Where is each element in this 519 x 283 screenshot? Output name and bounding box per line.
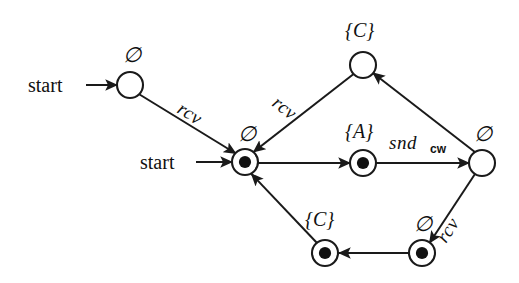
- initial-accepting-center[interactable]: [232, 149, 258, 175]
- edge-label-snd-cw: snd cw: [389, 132, 447, 156]
- state-label-bottom-c: {C}: [305, 208, 334, 230]
- state-label-center: ∅: [238, 122, 258, 146]
- state-label-mid-a: {A}: [345, 120, 373, 142]
- automaton-diagram: start start ∅ {C} ∅ {A} ∅ {C} ∅ rcv rcv …: [0, 0, 519, 283]
- state-top-c[interactable]: [350, 52, 376, 78]
- state-label-top-c: {C}: [345, 19, 374, 41]
- initial-state-upper[interactable]: [117, 72, 143, 98]
- edge-label-snd-subscript: cw: [430, 142, 447, 156]
- start-label-lower: start: [140, 151, 175, 173]
- state-label-bottom-right: ∅: [414, 212, 434, 236]
- state-right[interactable]: [469, 150, 495, 176]
- edge-label-rcv-bottom-right: rcv: [432, 213, 463, 246]
- edge-top-c-to-center: [254, 74, 354, 152]
- state-label-right: ∅: [474, 122, 494, 146]
- state-mid-a[interactable]: [350, 150, 376, 176]
- edge-label-snd: snd: [389, 132, 417, 153]
- start-label-upper: start: [28, 74, 63, 96]
- edge-label-rcv-init-upper: rcv: [174, 98, 207, 129]
- state-bottom-c[interactable]: [312, 240, 338, 266]
- state-bottom-right[interactable]: [409, 240, 435, 266]
- diagram-canvas: start start ∅ {C} ∅ {A} ∅ {C} ∅ rcv rcv …: [0, 0, 519, 283]
- state-label-initial-upper: ∅: [123, 43, 143, 67]
